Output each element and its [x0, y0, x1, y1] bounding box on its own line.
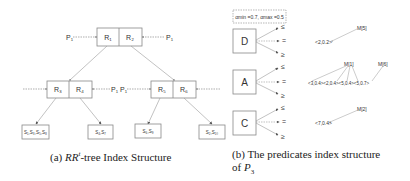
- alpha-threshold-box: αmin =0.7, αmax =0.5: [233, 10, 286, 23]
- svg-text:M[5]: M[5]: [357, 25, 367, 31]
- leaf-node: S₄,S₇: [88, 125, 113, 139]
- svg-text:S₂,S₁₀: S₂,S₁₀: [206, 130, 219, 135]
- op-ge: ≥: [281, 92, 285, 99]
- svg-text:D: D: [241, 36, 248, 47]
- right-node-pointer: P₁: [120, 86, 128, 93]
- op-ge: ≥: [281, 51, 285, 58]
- svg-text:S₄,S₇: S₄,S₇: [95, 130, 106, 135]
- caption-b: (b) The predicates index structure of P3: [232, 148, 410, 179]
- attribute-d: D ≤ = ≥: [233, 23, 286, 58]
- svg-text:C: C: [241, 118, 248, 129]
- op-eq: =: [282, 118, 286, 125]
- left-internal-node: R₃ R₄: [47, 81, 92, 98]
- leaf-node: S₆,S₉: [135, 124, 161, 138]
- root-node: R₁ R₂: [97, 28, 142, 46]
- op-eq: =: [282, 37, 286, 44]
- leaf-node: S₁,S₃,S₅,S₈: [22, 125, 49, 139]
- op-le: ≤: [281, 104, 285, 111]
- attribute-c: C ≤ = ≥: [233, 104, 286, 140]
- c-tree: M[2] <7,0.4>: [315, 106, 367, 126]
- right-internal-node: R₅ R₆: [151, 81, 196, 98]
- svg-text:<7,0.4>: <7,0.4>: [315, 120, 332, 126]
- right-node-left-label: R₅: [158, 86, 166, 93]
- root-right-label: R₂: [126, 34, 134, 41]
- right-node-right-label: R₆: [180, 86, 188, 93]
- root-pointer-right: P₁: [166, 34, 174, 41]
- op-le: ≤: [281, 63, 285, 70]
- svg-text:<2,0.2>: <2,0.2>: [315, 39, 332, 45]
- svg-text:A: A: [241, 77, 248, 88]
- svg-text:S₆,S₉: S₆,S₉: [143, 129, 154, 134]
- d-tree: M[5] <2,0.2>: [315, 25, 367, 45]
- root-pointer-left: P₁: [66, 34, 74, 41]
- svg-text:αmin =0.7, αmax =0.5: αmin =0.7, αmax =0.5: [235, 14, 284, 20]
- svg-text:M[2]: M[2]: [357, 106, 367, 112]
- svg-text:M[6]: M[6]: [378, 61, 388, 67]
- caption-a: (a) RRt-tree Index Structure: [50, 148, 171, 164]
- left-node-right-label: R₄: [76, 86, 84, 93]
- leaf-nodes: S₁,S₃,S₅,S₈ S₄,S₇ S₆,S₉ S₂,S₁₀: [22, 124, 225, 139]
- op-le: ≤: [281, 23, 285, 30]
- op-ge: ≥: [281, 133, 285, 140]
- leaf-node: S₂,S₁₀: [199, 125, 225, 139]
- svg-text:S₁,S₃,S₅,S₈: S₁,S₃,S₅,S₈: [24, 130, 47, 135]
- attribute-a: A ≤ = ≥: [233, 63, 286, 99]
- op-eq: =: [282, 78, 286, 85]
- a-tree: M[1] M[6] <3,0.4><2,0.4><5,0.4><5,0.7>: [308, 61, 388, 86]
- left-node-left-label: R₃: [54, 86, 62, 93]
- svg-text:<3,0.4><2,0.4><5,0.4><5,0.7>: <3,0.4><2,0.4><5,0.4><5,0.7>: [308, 81, 369, 86]
- left-node-pointer: P₁: [111, 86, 119, 93]
- root-left-label: R₁: [104, 34, 112, 41]
